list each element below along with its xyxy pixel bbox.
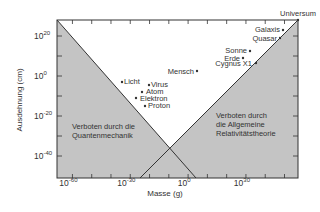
relativity-region-label: Relativitätstheorie — [216, 129, 276, 138]
relativity-region-label: Verboten durch — [216, 111, 267, 120]
data-point-marker — [121, 81, 123, 83]
mass-size-chart: 10-6010-301001030102010010-2010-40 Unive… — [0, 0, 320, 212]
data-point-marker — [282, 29, 284, 31]
data-point-label: Proton — [148, 101, 170, 110]
y-tick-label: 10-20 — [34, 110, 53, 121]
data-point-label: Universum — [280, 9, 316, 18]
quantum-region-label: Verboten durch die — [72, 122, 135, 131]
relativity-region-label: die Allgemeine — [216, 120, 265, 129]
data-point-label: Galaxis — [255, 25, 280, 34]
data-point-marker — [249, 50, 251, 52]
forbidden-regions — [57, 20, 298, 178]
data-point-marker — [279, 37, 281, 39]
data-point-label: Quasar — [252, 34, 277, 43]
data-point-marker — [135, 97, 137, 99]
x-tick-label: 10-30 — [117, 177, 136, 188]
data-point-marker — [141, 91, 143, 93]
data-point-label: Licht — [124, 77, 141, 86]
data-point-marker — [255, 62, 257, 64]
x-tick-label: 1030 — [234, 177, 251, 188]
data-point-marker — [144, 105, 146, 107]
x-tick-label: 100 — [178, 177, 191, 188]
quantum-region-label: Quantenmechanik — [72, 131, 133, 140]
data-point-marker — [148, 84, 150, 86]
y-tick-label: 1020 — [34, 30, 51, 41]
y-tick-label: 10-40 — [34, 150, 53, 161]
data-point-marker — [196, 70, 198, 72]
data-point-label: Cygnus X1 — [215, 59, 252, 68]
y-axis-title: Ausdehnung (cm) — [15, 68, 24, 131]
data-point-marker — [297, 19, 299, 21]
data-point-label: Mensch — [168, 67, 194, 76]
y-tick-label: 100 — [34, 70, 47, 81]
x-axis-title: Masse (g) — [147, 189, 183, 198]
x-tick-label: 10-60 — [59, 177, 78, 188]
